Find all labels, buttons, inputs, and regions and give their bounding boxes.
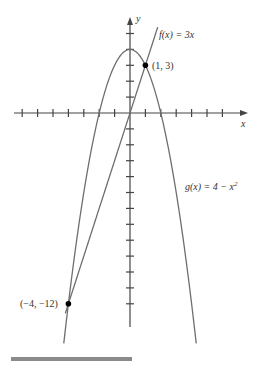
f-label: f(x) = 3x bbox=[159, 29, 194, 40]
point-neg4-neg12-label: (−4, −12) bbox=[20, 298, 58, 309]
x-axis-label: x bbox=[241, 118, 245, 129]
g-label-exponent: 2 bbox=[234, 180, 238, 188]
point-marker bbox=[143, 63, 149, 69]
point-1-3-label: (1, 3) bbox=[152, 60, 174, 71]
bottom-rule bbox=[11, 357, 132, 361]
g-label-text: g(x) = 4 − x bbox=[185, 181, 234, 192]
y-axis-label: y bbox=[136, 13, 140, 24]
line-f bbox=[65, 27, 157, 313]
g-label: g(x) = 4 − x2 bbox=[185, 180, 238, 192]
axes bbox=[14, 17, 248, 327]
point-marker bbox=[66, 301, 72, 307]
